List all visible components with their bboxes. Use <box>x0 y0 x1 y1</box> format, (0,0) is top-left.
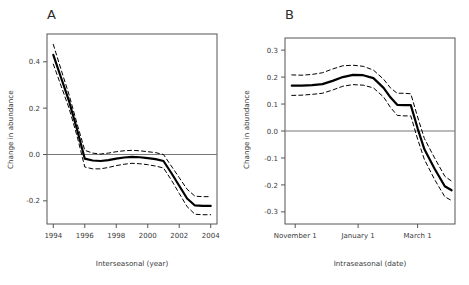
b-y-tick-label: 0.0 <box>267 128 278 136</box>
panel-a: A 0.40.20.0-0.2199419961998200020022004 … <box>0 0 234 285</box>
a-series-upper_confidence_limit <box>53 44 210 196</box>
panel-b-y-axis-label: Change in abundance <box>242 55 251 205</box>
panel-b-plot: 0.30.20.10.0-0.1-0.2-0.3November 1Januar… <box>235 0 469 285</box>
a-y-tick-label: -0.2 <box>26 197 40 205</box>
a-x-tick-label: 2004 <box>202 232 220 240</box>
a-x-tick-label: 2002 <box>170 232 188 240</box>
a-x-tick-label: 1994 <box>44 232 62 240</box>
b-x-tick-label: March 1 <box>404 232 432 240</box>
b-series-lower_confidence_limit <box>292 85 452 201</box>
a-y-tick-label: 0.2 <box>29 105 40 113</box>
panel-b-x-axis-label: Intraseasonal (date) <box>285 259 455 268</box>
a-series-fit <box>53 55 210 206</box>
panel-b: B 0.30.20.10.0-0.1-0.2-0.3November 1Janu… <box>235 0 469 285</box>
panel-a-plot: 0.40.20.0-0.2199419961998200020022004 <box>0 0 234 285</box>
b-series-fit <box>292 75 452 190</box>
panel-a-y-axis-label: Change in abundance <box>6 60 15 200</box>
figure-container: A 0.40.20.0-0.2199419961998200020022004 … <box>0 0 469 285</box>
a-x-tick-label: 1996 <box>76 232 94 240</box>
a-series-lower_confidence_limit <box>53 64 210 215</box>
b-y-tick-label: -0.1 <box>264 155 278 163</box>
b-x-tick-label: November 1 <box>274 232 317 240</box>
panel-a-x-axis-label: Interseasonal (year) <box>47 259 217 268</box>
a-y-tick-label: 0.4 <box>29 58 41 66</box>
b-y-tick-label: -0.2 <box>264 182 278 190</box>
b-y-tick-label: 0.3 <box>267 47 278 55</box>
b-y-tick-label: 0.2 <box>267 74 278 82</box>
b-x-tick-label: January 1 <box>340 232 374 240</box>
a-x-tick-label: 1998 <box>107 232 125 240</box>
b-series-upper_confidence_limit <box>292 65 452 181</box>
a-x-tick-label: 2000 <box>139 232 157 240</box>
b-y-tick-label: 0.1 <box>267 101 278 109</box>
b-y-tick-label: -0.3 <box>264 208 278 216</box>
a-y-tick-label: 0.0 <box>29 151 40 159</box>
